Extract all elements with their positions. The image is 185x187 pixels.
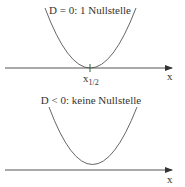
root-label: x1/2	[83, 72, 99, 87]
parabola-above-axis	[49, 107, 137, 165]
panel-one-root: D = 0: 1 Nullstelle x1/2 x	[5, 4, 173, 87]
root-label-subscript: 1/2	[89, 78, 99, 87]
axis-label-1: x	[167, 70, 173, 82]
panel-one-title: D = 0: 1 Nullstelle	[49, 4, 131, 16]
panel-two-title: D < 0: keine Nullstelle	[41, 94, 141, 106]
panel-no-root: D < 0: keine Nullstelle x	[5, 94, 173, 185]
axis-label-2: x	[167, 173, 173, 185]
parabola-touching-axis	[45, 8, 136, 68]
discriminant-diagram: D = 0: 1 Nullstelle x1/2 x D < 0: keine …	[0, 0, 185, 187]
